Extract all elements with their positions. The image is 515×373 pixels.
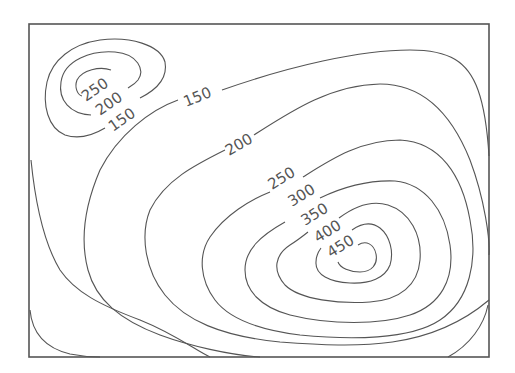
contour-outer-2 [30, 310, 100, 357]
label-pri-150: 150 [181, 83, 214, 110]
contour-plot: 250 200 150 150 200 250 300 350 400 450 [0, 0, 515, 373]
contour-pri-350 [277, 203, 420, 302]
contour-outer-right [448, 305, 488, 357]
secondary-peak-contours: 250 200 150 [45, 39, 165, 137]
contour-pri-150 [84, 50, 489, 357]
label-pri-200: 200 [222, 130, 256, 160]
contour-outer-1 [31, 160, 210, 357]
